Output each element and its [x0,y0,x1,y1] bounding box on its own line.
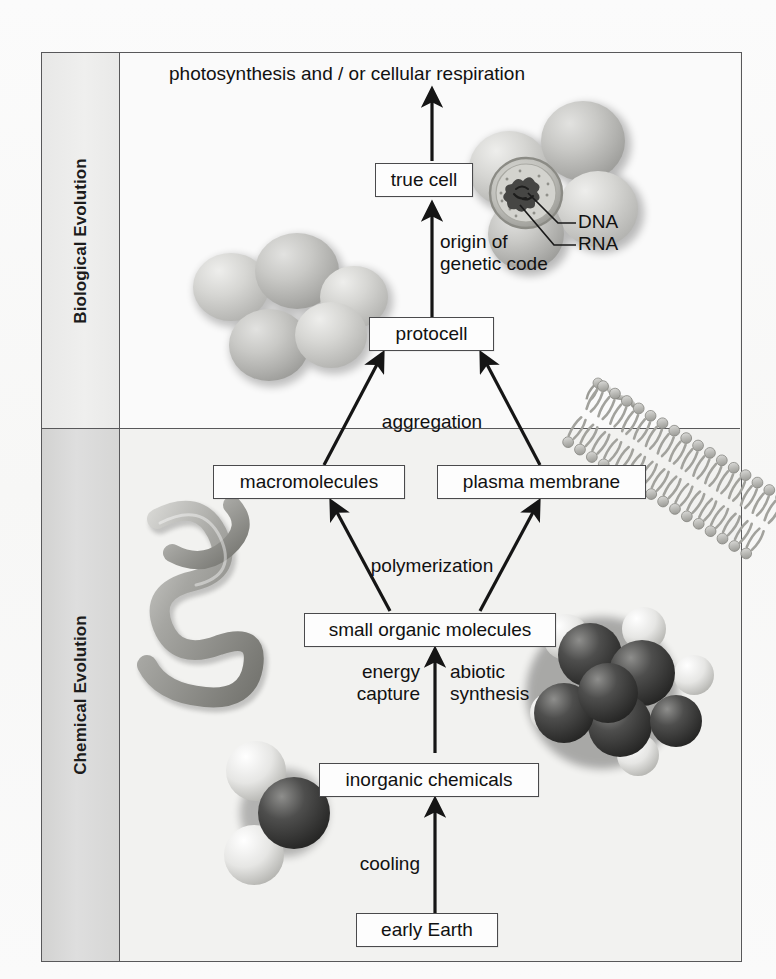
leader-dna [528,193,576,223]
figure-frame: Biological Evolution Chemical Evolution [41,52,742,962]
callout-leader-layer [42,53,743,963]
figure-page: Biological Evolution Chemical Evolution [0,0,776,979]
leader-rna [520,205,576,245]
